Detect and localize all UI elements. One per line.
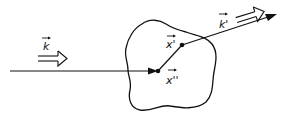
incident-wavevector-label: k: [43, 40, 50, 53]
exit-point-label: x': [165, 38, 176, 51]
scatterer-region: [125, 20, 216, 110]
incident-direction-arrow: [38, 51, 67, 66]
scattered-ray-arrowhead: [265, 14, 277, 21]
scattered-direction-arrow: [234, 4, 266, 27]
scattering-diagram: k k' x' x'': [0, 0, 286, 118]
scattered-wavevector-label: k': [219, 18, 228, 31]
x-double-prime-vector-arrowhead: [174, 69, 177, 72]
entry-point-label: x'': [165, 74, 179, 87]
k-prime-vector-arrowhead: [225, 13, 228, 16]
